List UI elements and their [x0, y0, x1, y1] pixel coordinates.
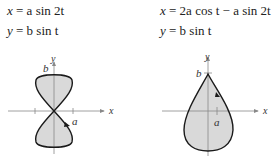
axis-label-y: y — [204, 51, 210, 62]
direction-arrow-icon — [64, 122, 70, 127]
label-b: b — [196, 67, 202, 79]
right-curve-fill — [184, 74, 233, 151]
label-b: b — [43, 62, 49, 74]
left-graph: x y a b — [8, 53, 114, 154]
axis-label-x: x — [108, 105, 114, 116]
axis-label-y: y — [50, 53, 56, 64]
axis-label-x: x — [262, 105, 268, 116]
label-a: a — [214, 116, 220, 128]
graphs: x y a b x y a b — [0, 0, 274, 160]
label-a: a — [72, 115, 78, 127]
right-graph: x y a b — [162, 51, 268, 156]
